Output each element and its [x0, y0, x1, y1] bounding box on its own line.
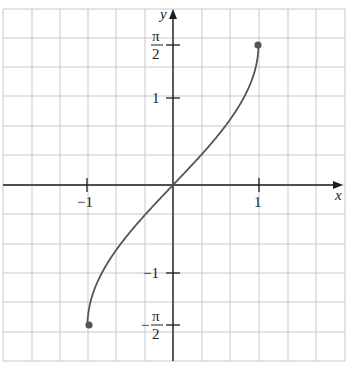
y-tick-label-neg-pi-over-2-sign: −	[141, 317, 149, 333]
y-tick-label-pi-over-2-num: π	[152, 28, 160, 44]
y-axis-arrow-icon	[169, 9, 177, 19]
y-tick-label-neg1: −1	[143, 265, 159, 281]
endpoint-top	[254, 41, 261, 48]
x-axis-label: x	[334, 187, 342, 203]
arcsin-graph: y x −1 1 1 −1 π 2 − π 2	[0, 0, 350, 365]
y-tick-label-neg-pi-over-2-den: 2	[152, 326, 160, 342]
endpoint-bottom	[85, 321, 92, 328]
y-tick-label-1: 1	[152, 90, 160, 106]
x-tick-label-1: 1	[254, 194, 262, 210]
x-tick-label-neg1: −1	[77, 194, 93, 210]
y-tick-label-neg-pi-over-2-num: π	[152, 308, 160, 324]
y-tick-label-pi-over-2-den: 2	[152, 46, 160, 62]
y-axis-label: y	[158, 6, 167, 22]
